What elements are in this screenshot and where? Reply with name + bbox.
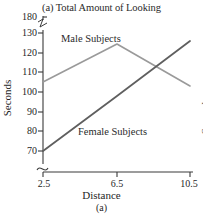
x-tick-label-2-5: 2.5 (38, 179, 51, 189)
y-axis-label: Seconds (1, 68, 13, 128)
chart-figure: (a) Total Amount of Looking 180 (0, 0, 203, 216)
series-label-male: Male Subjects (61, 33, 121, 44)
x-tick-label-10-5: 10.5 (180, 179, 198, 189)
figure-caption: (a) (0, 202, 203, 213)
series-label-female: Female Subjects (78, 126, 147, 137)
x-axis-label: Distance (0, 189, 203, 201)
y-axis-label-right: Seconds (199, 86, 203, 146)
x-tick-label-6-5: 6.5 (111, 179, 124, 189)
